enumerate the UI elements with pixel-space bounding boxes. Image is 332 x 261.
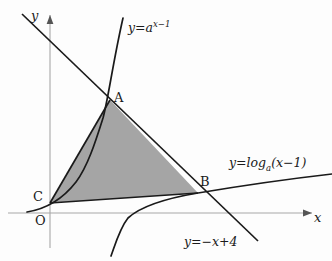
line-equation-text: y=−x+4	[184, 234, 238, 249]
point-label-B: B	[200, 175, 210, 188]
point-label-A: A	[114, 91, 123, 104]
y-axis-arrowhead	[47, 15, 54, 24]
x-axis-arrowhead	[303, 210, 312, 217]
logarithm-equation-lhs: y=log	[229, 155, 266, 170]
exponential-equation-exponent: x−1	[153, 19, 170, 29]
figure-container: y x O A B C y=ax−1 y=loga(x−1) y=−x+4	[0, 0, 332, 261]
x-axis-label: x	[314, 211, 321, 224]
exponential-equation-label: y=ax−1	[128, 20, 170, 35]
point-label-C: C	[33, 190, 43, 203]
line-equation-label: y=−x+4	[184, 236, 238, 249]
line-curve-y-equals-minus-x-plus-4	[22, 14, 258, 241]
y-axis-label: y	[31, 9, 38, 22]
geometry-figure	[0, 0, 332, 261]
logarithm-equation-rhs: (x−1)	[271, 155, 306, 170]
exponential-equation-lhs: y=a	[128, 20, 153, 35]
logarithm-equation-label: y=loga(x−1)	[229, 157, 306, 172]
origin-label: O	[35, 214, 46, 227]
